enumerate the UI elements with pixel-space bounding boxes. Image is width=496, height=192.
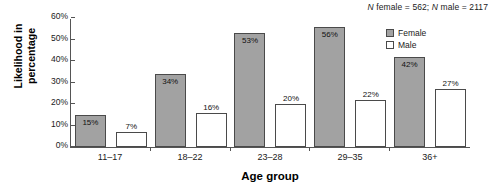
bar-group: 34% 16% — [151, 19, 231, 147]
y-tick-60: 60% — [31, 17, 75, 18]
y-tick-30: 30% — [31, 82, 75, 83]
x-category-label: 29–35 — [310, 152, 390, 166]
y-tick-label: 30% — [51, 76, 68, 86]
bar-male[interactable]: 20% — [275, 104, 306, 147]
bar-group: 56% 22% — [310, 19, 390, 147]
bar-male[interactable]: 7% — [116, 132, 147, 147]
bar-value-label: 15% — [82, 118, 98, 127]
x-tick-mark — [150, 147, 151, 151]
y-tick-label: 50% — [51, 33, 68, 43]
y-tick-label: 10% — [51, 119, 68, 129]
bar-female[interactable]: 34% — [155, 74, 186, 147]
bar-male[interactable]: 16% — [196, 113, 227, 147]
bar-female[interactable]: 56% — [314, 27, 345, 147]
y-tick-label: 0% — [56, 140, 68, 150]
bar-female[interactable]: 42% — [394, 57, 425, 147]
bar-value-label: 22% — [363, 90, 379, 99]
y-tick-10: 10% — [31, 125, 75, 126]
x-category-label: 36+ — [390, 152, 470, 166]
x-category-label: 23–28 — [230, 152, 310, 166]
x-tick-mark — [309, 147, 310, 151]
bar-value-label: 42% — [402, 60, 418, 69]
y-tick-20: 20% — [31, 103, 75, 104]
legend-swatch-icon — [386, 41, 394, 49]
y-tick-40: 40% — [31, 60, 75, 61]
x-tick-mark — [389, 147, 390, 151]
x-axis-title: Age group — [70, 170, 470, 182]
n-female-text: female = 562; — [374, 2, 432, 12]
legend-item-male[interactable]: Male — [386, 39, 426, 51]
bar-pair: 53% 20% — [231, 19, 311, 147]
x-tick-mark — [230, 147, 231, 151]
x-category-label: 11–17 — [70, 152, 150, 166]
bar-value-label: 34% — [162, 77, 178, 86]
bar-value-label: 27% — [443, 79, 459, 88]
bar-group: 53% 20% — [231, 19, 311, 147]
bar-value-label: 20% — [283, 94, 299, 103]
bar-female[interactable]: 15% — [75, 115, 106, 147]
legend-swatch-icon — [386, 29, 394, 37]
x-axis-labels: 11–17 18–22 23–28 29–35 36+ — [70, 152, 470, 166]
chart-legend: Female Male — [386, 27, 426, 51]
bar-value-label: 53% — [242, 36, 258, 45]
bar-value-label: 16% — [203, 103, 219, 112]
chart-figure: N female = 562; N male = 2117 Likelihood… — [0, 0, 496, 192]
bar-male[interactable]: 27% — [435, 89, 466, 147]
bar-group: 15% 7% — [71, 19, 151, 147]
bar-value-label: 56% — [322, 30, 338, 39]
sample-size-annotation: N female = 562; N male = 2117 — [368, 2, 488, 12]
y-tick-50: 50% — [31, 39, 75, 40]
y-tick-mark — [71, 17, 75, 18]
legend-item-female[interactable]: Female — [386, 27, 426, 39]
y-tick-label: 40% — [51, 54, 68, 64]
bar-pair: 34% 16% — [151, 19, 231, 147]
bar-female[interactable]: 53% — [234, 33, 265, 147]
n-male-text: male = 2117 — [438, 2, 488, 12]
bar-value-label: 7% — [126, 122, 138, 131]
x-category-label: 18–22 — [150, 152, 230, 166]
y-tick-0: 0% — [31, 146, 75, 147]
y-tick-label: 60% — [51, 11, 68, 21]
bar-pair: 56% 22% — [310, 19, 390, 147]
bar-male[interactable]: 22% — [355, 100, 386, 147]
bar-pair: 15% 7% — [71, 19, 151, 147]
y-tick-label: 20% — [51, 97, 68, 107]
legend-label: Female — [398, 27, 426, 39]
legend-label: Male — [398, 39, 416, 51]
